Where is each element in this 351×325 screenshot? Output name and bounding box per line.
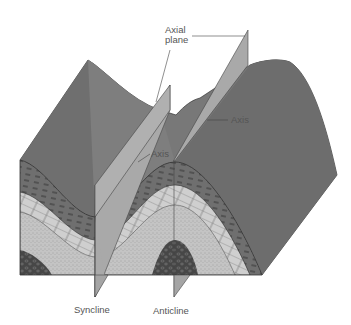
anticline-label: Anticline	[153, 306, 189, 316]
fold-diagram	[0, 0, 351, 325]
axis-label-right: Axis	[231, 115, 249, 125]
axis-label-left: Axis	[151, 149, 169, 159]
axial-plane-label: Axial plane	[165, 25, 188, 45]
syncline-label: Syncline	[74, 305, 110, 315]
